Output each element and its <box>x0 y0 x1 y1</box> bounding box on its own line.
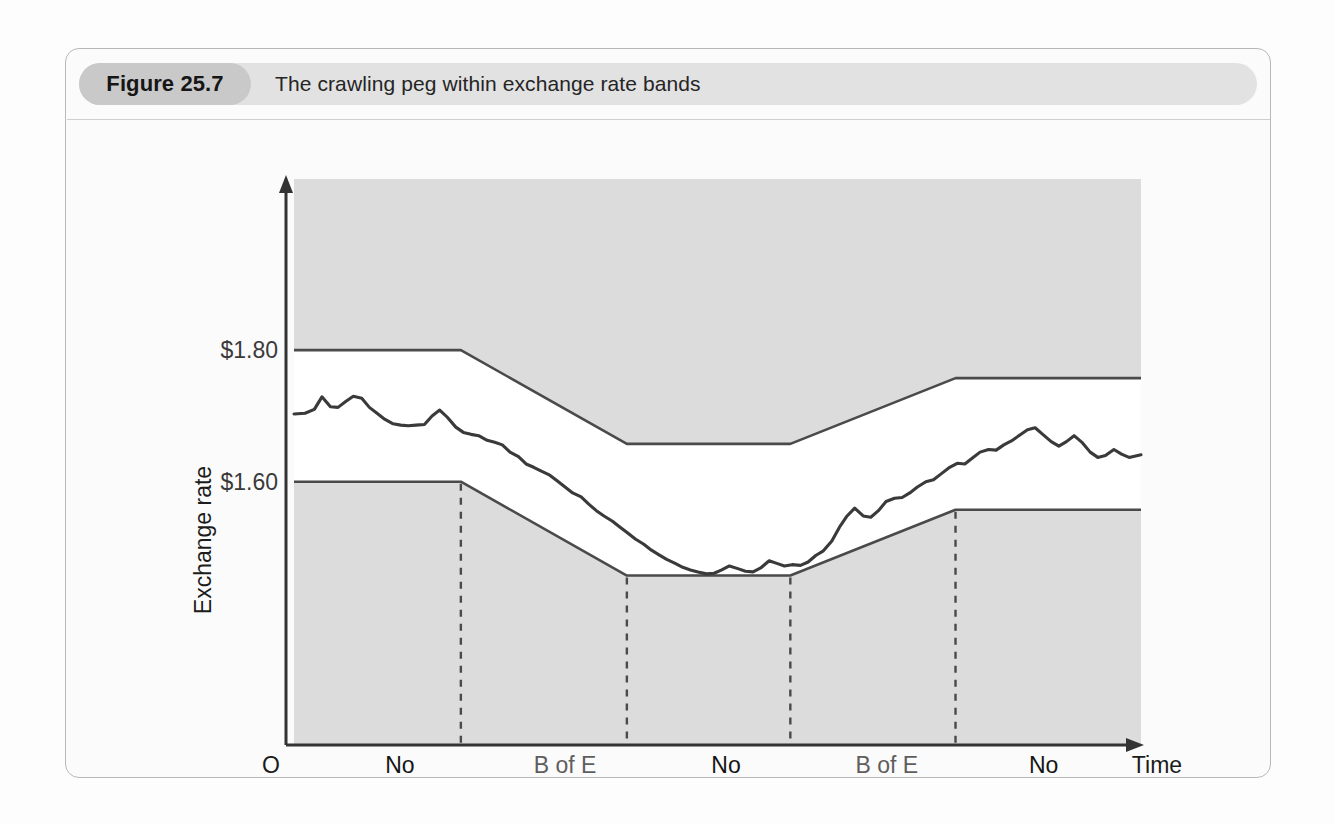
figure-number-label: Figure 25.7 <box>106 71 223 97</box>
chart-plot-area: $1.80$1.60 Exchange rate O Nointerventio… <box>66 120 1272 779</box>
y-tick-label-1: $1.80 <box>220 337 278 363</box>
figure-frame: Figure 25.7 The crawling peg within exch… <box>65 48 1271 778</box>
x-axis-title: Time <box>1132 752 1182 778</box>
y-tick-label-2: $1.60 <box>220 469 278 495</box>
y-axis-title: Exchange rate <box>190 466 216 614</box>
y-axis-tick-labels: $1.80$1.60 <box>220 337 278 495</box>
y-axis <box>279 175 293 745</box>
y-axis-arrow-icon <box>279 175 293 193</box>
origin-label: O <box>262 752 280 778</box>
figure-caption-bar: Figure 25.7 The crawling peg within exch… <box>79 63 1257 105</box>
exchange-rate-chart: $1.80$1.60 Exchange rate O Nointerventio… <box>66 120 1272 779</box>
phase-label-2-line-1: B of E <box>534 752 597 778</box>
figure-title: The crawling peg within exchange rate ba… <box>275 63 701 105</box>
phase-label-4-line-1: B of E <box>856 752 919 778</box>
phase-annotation-labels: NointerventionB of Ebuys poundsNointerve… <box>340 752 1103 779</box>
phase-label-1-line-1: No <box>385 752 414 778</box>
phase-label-3-line-1: No <box>711 752 740 778</box>
phase-label-5-line-1: No <box>1029 752 1058 778</box>
figure-number-badge: Figure 25.7 <box>79 63 251 105</box>
